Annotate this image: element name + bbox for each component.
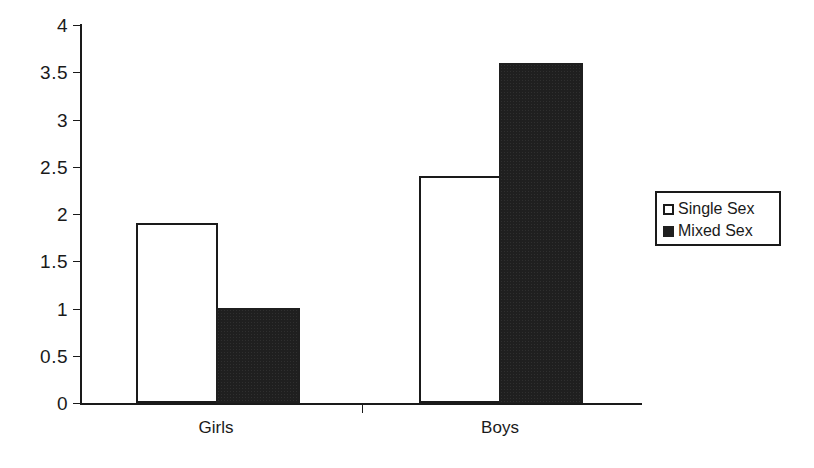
legend-item-single-sex[interactable]: Single Sex xyxy=(663,198,779,220)
y-axis-tick-label-text: 0 xyxy=(0,394,68,413)
bar-chart: 4 3.5 3 2.5 2 1.5 1 0.5 0 Girls Boys xyxy=(0,0,814,468)
plot-area xyxy=(82,25,642,403)
y-axis-tick-label: 1 xyxy=(0,300,68,319)
y-tick-mark xyxy=(73,356,82,357)
y-tick-mark xyxy=(73,167,82,168)
y-axis-tick-label: 1.5 xyxy=(0,252,68,271)
y-axis-tick-label-text: 3 xyxy=(0,111,68,130)
x-tick-mark xyxy=(362,404,363,413)
bar-girls-mixed-sex[interactable] xyxy=(216,308,300,403)
legend: Single Sex Mixed Sex xyxy=(655,191,781,246)
y-axis-tick-label: 2 xyxy=(0,205,68,224)
y-axis-tick-label: 3.5 xyxy=(0,63,68,82)
y-tick-mark xyxy=(73,72,82,73)
y-tick-mark xyxy=(73,309,82,310)
y-axis-tick-label: 3 xyxy=(0,111,68,130)
legend-label-mixed-sex: Mixed Sex xyxy=(678,223,753,239)
y-axis-tick-label-text: 0.5 xyxy=(0,347,68,366)
y-axis-tick-label: 2.5 xyxy=(0,158,68,177)
filled-square-swatch-icon xyxy=(663,226,674,237)
y-axis-tick-label-text: 1 xyxy=(0,300,68,319)
x-axis-line xyxy=(80,403,642,405)
bar-boys-mixed-sex[interactable] xyxy=(499,63,583,403)
y-tick-mark xyxy=(73,120,82,121)
x-axis-category-label-girls: Girls xyxy=(156,418,276,438)
y-tick-mark xyxy=(73,261,82,262)
open-square-swatch-icon xyxy=(663,204,674,215)
y-tick-mark xyxy=(73,214,82,215)
y-axis-tick-label: 4 xyxy=(0,16,68,35)
y-axis-tick-label-text: 2.5 xyxy=(0,158,68,177)
x-axis-category-label-boys: Boys xyxy=(440,418,560,438)
legend-item-mixed-sex[interactable]: Mixed Sex xyxy=(663,220,779,242)
legend-label-single-sex: Single Sex xyxy=(678,201,755,217)
y-axis-tick-label-text: 1.5 xyxy=(0,252,68,271)
y-axis-tick-label-text: 3.5 xyxy=(0,63,68,82)
y-axis-tick-label: 0 xyxy=(0,394,68,413)
y-axis-tick-label: 0.5 xyxy=(0,347,68,366)
y-axis-tick-label-text: 2 xyxy=(0,205,68,224)
bar-girls-single-sex[interactable] xyxy=(136,223,218,403)
y-tick-mark xyxy=(73,25,82,26)
y-axis-tick-label-text: 4 xyxy=(0,16,68,35)
bar-boys-single-sex[interactable] xyxy=(419,176,501,403)
